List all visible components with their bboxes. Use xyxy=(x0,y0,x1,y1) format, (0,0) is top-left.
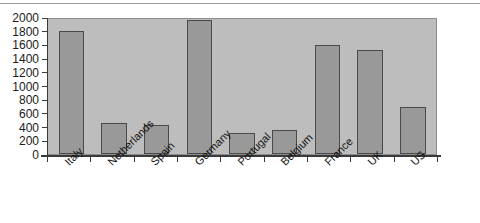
y-tick-label: 200 xyxy=(19,135,42,147)
bar-slot xyxy=(50,19,93,154)
y-tick-mark xyxy=(42,45,47,46)
y-tick-mark xyxy=(42,141,47,142)
bar-italy[interactable] xyxy=(59,31,85,154)
y-axis-line xyxy=(47,18,48,156)
bar-slot xyxy=(349,19,392,154)
y-tick-label: 800 xyxy=(19,94,42,106)
bar-slot xyxy=(391,19,434,154)
bar-uk[interactable] xyxy=(357,50,383,154)
bar-chart: 2000180016001400120010008006004002000 It… xyxy=(0,0,480,223)
top-divider xyxy=(0,3,480,4)
y-tick-mark xyxy=(42,113,47,114)
y-tick-mark xyxy=(42,72,47,73)
bar-us[interactable] xyxy=(400,107,426,154)
y-tick-label: 1600 xyxy=(12,39,42,51)
y-tick-label: 1000 xyxy=(12,81,42,93)
y-tick-label: 2000 xyxy=(12,12,42,24)
y-tick-mark xyxy=(42,59,47,60)
bar-france[interactable] xyxy=(315,45,341,154)
y-axis-ticks: 2000180016001400120010008006004002000 xyxy=(0,18,47,155)
y-tick-label: 1800 xyxy=(12,26,42,38)
y-tick-mark xyxy=(42,127,47,128)
x-axis-labels: ItalyNetherlandsSpainGermanyPortugalBelg… xyxy=(47,160,437,220)
y-tick-mark xyxy=(42,18,47,19)
y-tick-label: 400 xyxy=(19,122,42,134)
y-tick-mark xyxy=(42,100,47,101)
y-tick-label: 600 xyxy=(19,108,42,120)
bar-series xyxy=(48,19,436,154)
y-tick-mark xyxy=(42,31,47,32)
y-tick-mark xyxy=(42,86,47,87)
bar-germany[interactable] xyxy=(187,20,213,154)
x-tick-mark xyxy=(437,157,438,162)
y-tick-label: 1400 xyxy=(12,53,42,65)
bar-slot xyxy=(178,19,221,154)
y-tick-label: 1200 xyxy=(12,67,42,79)
bar-slot xyxy=(306,19,349,154)
plot-area xyxy=(47,18,437,155)
bar-slot xyxy=(263,19,306,154)
